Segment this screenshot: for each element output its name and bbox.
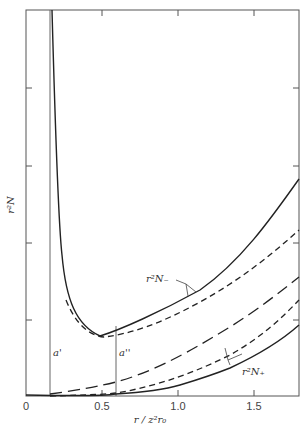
marker-label-a-prime: a' xyxy=(53,347,62,358)
annotation-arrows xyxy=(176,280,242,365)
series-nplus-solid xyxy=(26,325,299,395)
series-nminus-dashed xyxy=(66,230,299,337)
x-tick-1.0: 1.0 xyxy=(170,400,185,412)
y-ticks xyxy=(26,10,299,396)
annotation-nminus: r²N₋ xyxy=(146,273,169,284)
x-tick-0.5: 0.5 xyxy=(94,400,109,412)
marker-label-a-double-prime: a'' xyxy=(119,347,130,358)
chart: 0 0.5 1.0 1.5 r / z²r₀ r²N a' a'' r²N₋ r… xyxy=(0,0,306,425)
plot-frame xyxy=(26,10,299,396)
series-nminus-solid xyxy=(52,10,299,336)
x-tick-0: 0 xyxy=(23,400,29,412)
x-axis-label: r / z²r₀ xyxy=(134,414,167,425)
y-axis-label: r²N xyxy=(5,195,16,214)
annotation-nplus: r²N₊ xyxy=(242,366,265,377)
x-tick-1.5: 1.5 xyxy=(246,400,261,412)
